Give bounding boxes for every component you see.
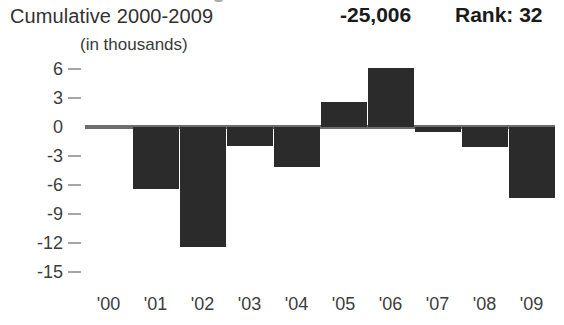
bar-y02 [180,127,226,247]
y-axis-tick: 6 [0,59,85,79]
rank-value: Rank: 32 [455,3,543,27]
bar-y04 [274,127,320,167]
x-axis-tick-label: '04 [273,292,320,316]
x-axis-tick-label: '08 [461,292,508,316]
y-axis-tick-mark [68,97,81,99]
x-axis-tick-label: '02 [179,292,226,316]
y-axis-tick-mark [68,242,81,244]
x-axis-tick-label: '03 [226,292,273,316]
bars-area [85,58,555,288]
y-axis-tick: -15 [0,262,85,282]
x-axis-tick-label: '06 [367,292,414,316]
y-axis-tick-label: 6 [3,59,63,79]
y-axis-tick: -3 [0,146,85,166]
cumulative-period-label: Cumulative 2000-2009 [10,4,213,28]
y-axis-tick-label: 0 [3,117,63,137]
bar-y06 [368,68,414,127]
y-axis-tick-label: -6 [3,175,63,195]
y-axis-tick-mark [68,213,81,215]
bar-y08 [462,127,508,147]
bar-y03 [227,127,273,146]
bar-y09 [509,127,555,198]
bar-y01 [133,127,179,189]
x-axis-tick-label: '05 [320,292,367,316]
y-axis-tick-label: -12 [3,233,63,253]
y-axis-tick: -9 [0,204,85,224]
clipped-title-descender [214,0,223,2]
y-axis-tick-label: -9 [3,204,63,224]
chart-header: Cumulative 2000-2009 -25,006 Rank: 32 [0,0,564,34]
x-axis-tick-label: '00 [85,292,132,316]
y-axis: 630-3-6-9-12-15 [0,58,85,288]
y-axis-tick: 3 [0,88,85,108]
bar-chart-plot: 630-3-6-9-12-15 [0,58,564,288]
x-axis: '00'01'02'03'04'05'06'07'08'09 [85,292,555,320]
y-axis-tick-mark [68,155,81,157]
y-axis-tick: -6 [0,175,85,195]
x-axis-tick-label: '01 [132,292,179,316]
y-axis-tick-label: -15 [3,262,63,282]
chart-panel: Cumulative 2000-2009 -25,006 Rank: 32 (i… [0,0,564,325]
y-axis-tick-mark [68,68,81,70]
cumulative-total-value: -25,006 [340,3,411,27]
x-axis-tick-label: '07 [414,292,461,316]
y-axis-tick-label: 3 [3,88,63,108]
y-axis-tick-mark [68,184,81,186]
y-axis-tick: 0 [0,117,85,137]
units-label: (in thousands) [80,35,188,55]
bar-y05 [321,102,367,127]
y-axis-tick: -12 [0,233,85,253]
y-axis-tick-label: -3 [3,146,63,166]
x-axis-tick-label: '09 [508,292,555,316]
bar-y07 [415,127,461,132]
y-axis-tick-mark [68,271,81,273]
